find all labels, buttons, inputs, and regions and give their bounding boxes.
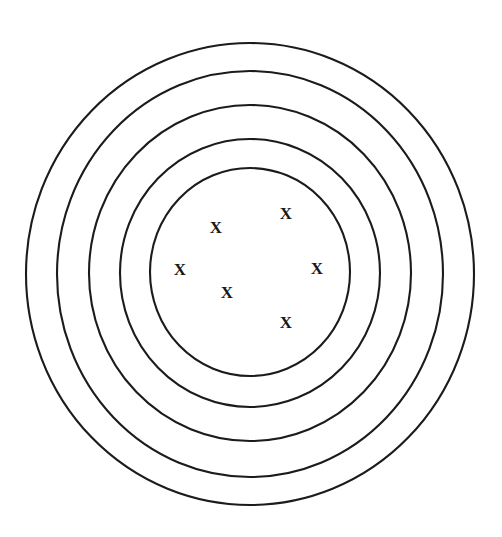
ring-4	[57, 71, 443, 477]
diagram-canvas: XXXXXX	[0, 0, 502, 537]
x-mark-upper-right: X	[280, 204, 293, 223]
ring-5-outermost	[26, 43, 474, 505]
x-mark-upper-left: X	[210, 218, 223, 237]
x-mark-lower-right: X	[280, 313, 293, 332]
ring-2	[120, 139, 380, 407]
ring-3	[89, 105, 411, 441]
x-mark-center: X	[221, 283, 234, 302]
x-mark-right: X	[311, 259, 324, 278]
rings-group	[26, 43, 474, 505]
x-marks-group: XXXXXX	[174, 204, 324, 332]
x-mark-left: X	[174, 260, 187, 279]
concentric-circles-diagram: XXXXXX	[0, 0, 502, 537]
